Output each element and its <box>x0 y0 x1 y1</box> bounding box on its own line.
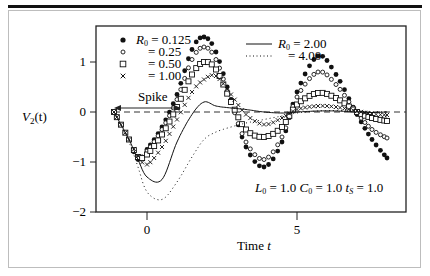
cross-icon <box>121 74 126 79</box>
y-tick-label: 1 <box>80 54 87 69</box>
y-tick-label: −2 <box>72 204 86 219</box>
x-axis-title: Time t <box>237 238 271 253</box>
spike-annotation: Spike <box>114 89 181 111</box>
legend-label: = 1.00 <box>148 68 181 83</box>
y-tick-label: 0 <box>80 104 87 119</box>
legend-label: = 4.00 <box>288 48 321 63</box>
y-axis-title: V2(t) <box>22 109 47 126</box>
x-tick-label: 0 <box>144 222 151 237</box>
filled-circle-icon <box>120 37 125 42</box>
open-circle-icon <box>121 50 125 54</box>
y-tick-label: −1 <box>72 154 86 169</box>
x-tick-label: 5 <box>294 222 301 237</box>
chart: 10−1−205 R0 = 0.125= 0.25= 0.50= 1.00R0 … <box>0 0 430 276</box>
series-cross <box>112 73 389 166</box>
spike-label: Spike <box>138 89 168 104</box>
open-square-icon <box>120 61 126 67</box>
parameters-annotation: L0 = 1.0 C0 = 1.0 tS = 1.0 <box>254 180 383 196</box>
